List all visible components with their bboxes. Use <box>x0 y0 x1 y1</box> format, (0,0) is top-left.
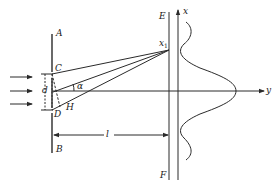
label-y-axis: y <box>266 86 271 95</box>
label-C: C <box>55 64 62 73</box>
ray-D-x1 <box>52 50 169 110</box>
double-slit-diagram: A B C D H d α l E F x y x1 <box>0 0 276 191</box>
alpha-arc <box>73 84 74 91</box>
label-B: B <box>56 145 63 154</box>
ray-C-x1 <box>52 50 169 74</box>
label-E: E <box>159 12 166 21</box>
label-H: H <box>66 103 74 112</box>
label-x1: x1 <box>159 39 168 49</box>
label-x1-sub: 1 <box>164 42 168 49</box>
label-d: d <box>42 86 48 95</box>
label-A: A <box>56 29 63 38</box>
label-l: l <box>106 130 109 139</box>
label-D: D <box>54 110 61 119</box>
label-F: F <box>160 171 166 180</box>
label-alpha: α <box>77 82 83 91</box>
label-x-axis: x <box>183 7 188 16</box>
diagram-drawing <box>0 0 276 191</box>
ray-mid-x1 <box>53 50 169 92</box>
